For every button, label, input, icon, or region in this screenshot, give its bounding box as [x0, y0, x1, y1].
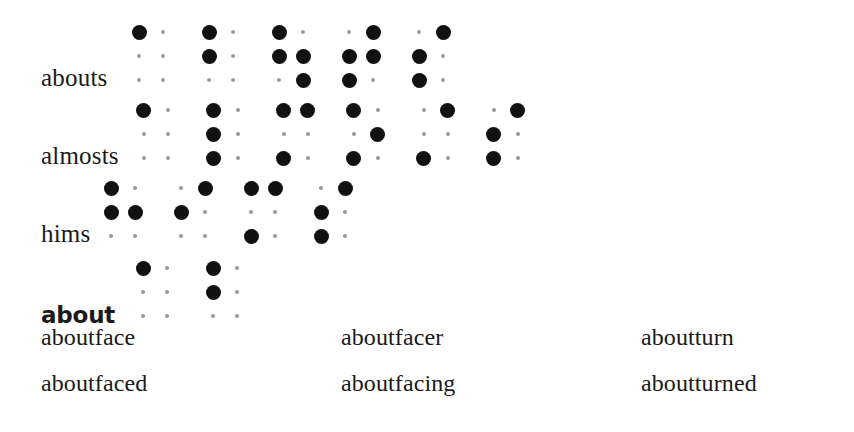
braille-dot-empty — [165, 266, 169, 270]
entry-word: hims — [41, 221, 90, 246]
braille-dot-raised — [272, 49, 287, 64]
braille-dot-raised — [174, 205, 189, 220]
braille-dot-raised — [198, 181, 213, 196]
braille-dot-empty — [236, 108, 240, 112]
braille-dot-empty — [236, 156, 240, 160]
braille-cell — [309, 176, 357, 248]
braille-dot-empty — [319, 186, 323, 190]
braille-cell — [99, 176, 147, 248]
braille-dot-raised — [342, 49, 357, 64]
braille-dot-empty — [441, 54, 445, 58]
braille-dot-empty — [422, 108, 426, 112]
braille-dot-empty — [422, 132, 426, 136]
entry-row-headword: about — [41, 256, 249, 327]
braille-dot-empty — [231, 30, 235, 34]
list-item: aboutturned — [641, 368, 831, 400]
braille-dot-raised — [346, 151, 361, 166]
braille-dot-empty — [516, 132, 520, 136]
braille-dot-empty — [161, 78, 165, 82]
braille-dot-empty — [133, 234, 137, 238]
braille-dot-empty — [446, 132, 450, 136]
derived-word-list: aboutface aboutfacer aboutturn aboutface… — [41, 322, 831, 399]
braille-dot-raised — [132, 25, 147, 40]
braille-dot-empty — [203, 234, 207, 238]
braille-cell — [127, 20, 175, 92]
braille-dot-empty — [371, 78, 375, 82]
braille-transcription — [127, 20, 455, 92]
braille-dot-empty — [161, 54, 165, 58]
braille-transcription — [99, 176, 357, 248]
braille-dot-empty — [446, 156, 450, 160]
braille-dot-raised — [440, 103, 455, 118]
braille-dot-empty — [273, 210, 277, 214]
braille-dot-empty — [165, 314, 169, 318]
braille-dot-empty — [249, 210, 253, 214]
braille-dot-empty — [417, 30, 421, 34]
braille-dot-empty — [137, 78, 141, 82]
braille-dot-raised — [136, 103, 151, 118]
braille-dot-raised — [272, 25, 287, 40]
braille-dot-raised — [268, 181, 283, 196]
braille-dot-empty — [516, 156, 520, 160]
entry-word: almosts — [41, 143, 119, 168]
braille-dot-empty — [376, 156, 380, 160]
braille-dot-raised — [342, 73, 357, 88]
braille-dot-raised — [366, 25, 381, 40]
braille-dot-raised — [346, 103, 361, 118]
braille-cell — [197, 20, 245, 92]
braille-cell — [202, 98, 250, 170]
braille-dot-raised — [276, 103, 291, 118]
braille-dot-raised — [244, 229, 259, 244]
braille-dot-empty — [141, 314, 145, 318]
braille-dot-empty — [273, 234, 277, 238]
braille-dot-raised — [300, 103, 315, 118]
braille-dot-empty — [306, 132, 310, 136]
braille-dot-empty — [211, 314, 215, 318]
braille-cell — [412, 98, 460, 170]
braille-dot-empty — [235, 290, 239, 294]
braille-dot-empty — [236, 132, 240, 136]
braille-dot-empty — [166, 132, 170, 136]
entry-row: hims — [41, 176, 357, 246]
braille-transcription — [132, 98, 530, 170]
braille-dot-empty — [282, 132, 286, 136]
braille-dot-raised — [244, 181, 259, 196]
braille-dot-raised — [486, 127, 501, 142]
braille-dot-empty — [179, 186, 183, 190]
braille-dot-empty — [137, 54, 141, 58]
braille-transcription — [131, 256, 249, 328]
braille-dot-raised — [104, 181, 119, 196]
braille-dot-empty — [277, 78, 281, 82]
braille-cell — [482, 98, 530, 170]
braille-dictionary-page: abouts almosts hims about aboutface abou… — [0, 0, 854, 432]
braille-cell — [337, 20, 385, 92]
list-item: aboutturn — [641, 322, 831, 354]
braille-dot-raised — [206, 103, 221, 118]
braille-dot-raised — [436, 25, 451, 40]
braille-dot-empty — [347, 30, 351, 34]
braille-dot-raised — [366, 49, 381, 64]
braille-dot-raised — [486, 151, 501, 166]
list-item: aboutfacing — [341, 368, 641, 400]
braille-dot-empty — [343, 210, 347, 214]
braille-dot-raised — [202, 49, 217, 64]
braille-cell — [131, 256, 179, 328]
braille-dot-empty — [179, 234, 183, 238]
braille-dot-empty — [109, 234, 113, 238]
braille-dot-raised — [136, 261, 151, 276]
braille-dot-raised — [206, 285, 221, 300]
braille-cell — [132, 98, 180, 170]
braille-dot-empty — [133, 186, 137, 190]
braille-dot-raised — [104, 205, 119, 220]
braille-dot-raised — [412, 73, 427, 88]
braille-dot-raised — [296, 73, 311, 88]
braille-cell — [267, 20, 315, 92]
braille-dot-raised — [296, 49, 311, 64]
braille-dot-empty — [231, 78, 235, 82]
braille-dot-empty — [376, 108, 380, 112]
braille-cell — [407, 20, 455, 92]
braille-dot-empty — [166, 108, 170, 112]
braille-dot-empty — [203, 210, 207, 214]
list-item: aboutface — [41, 322, 341, 354]
braille-dot-empty — [343, 234, 347, 238]
